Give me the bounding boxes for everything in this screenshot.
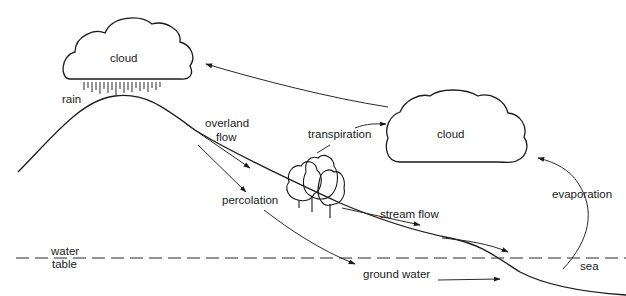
cloud-right-icon [386,90,526,163]
cloud-left-label: cloud [110,52,138,64]
ground-water-label: ground water [363,268,430,280]
percolation-label: percolation [222,194,278,206]
evaporation-arrow [538,158,588,269]
trees-icon [287,156,345,218]
sea-label: sea [580,260,599,272]
transpiration-leader [317,145,330,153]
percolation-arrow-1 [198,145,246,192]
rain-label: rain [62,93,81,105]
overland-flow-label-1: overland [205,117,249,129]
water-table-label-2: table [52,258,77,270]
transpiration-label: transpiration [308,128,371,140]
cloud-left-icon [63,18,193,79]
cloud-movement-arrow [206,64,388,107]
land-surface [18,95,626,295]
water-cycle-diagram: cloud rain overland flow transpiration c… [0,0,626,296]
water-table-label-1: water [50,245,79,257]
overland-flow-label-2: flow [216,131,237,143]
cloud-right-label: cloud [437,128,465,140]
stream-flow-label: stream flow [380,208,439,220]
ground-water-arrow [438,279,500,280]
rain-icon [84,82,160,95]
percolation-arrow-2 [264,210,355,264]
